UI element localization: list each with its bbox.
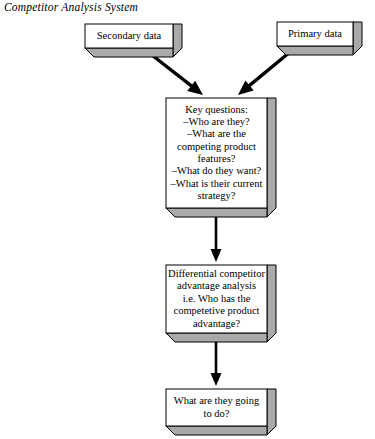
flowchart-node-key-questions: Key questions: –Who are they? –What are … [165, 97, 277, 218]
diagram-canvas: Competitor Analysis System Secondary dat… [0, 0, 375, 439]
node-side-face [173, 24, 182, 57]
flowchart-node-secondary-data: Secondary data [84, 23, 183, 58]
edge-arrowhead [211, 249, 222, 262]
node-shape-differential-advantage [165, 264, 277, 343]
node-front-face [166, 265, 267, 333]
node-bottom-face [166, 333, 267, 342]
edge-layer [0, 0, 375, 439]
edge-secondary-to-questions [148, 52, 203, 95]
node-side-face [353, 22, 362, 55]
node-side-face [267, 98, 276, 217]
edge-primary-to-questions [238, 52, 290, 95]
flowchart-node-primary-data: Primary data [276, 21, 363, 56]
flowchart-node-differential-advantage: Differential competitor advantage analys… [165, 264, 277, 343]
node-front-face [166, 389, 267, 426]
flowchart-node-what-next: What are they going to do? [165, 388, 277, 436]
diagram-title: Competitor Analysis System [4, 1, 138, 13]
node-shape-key-questions [165, 97, 277, 218]
node-bottom-face [277, 46, 353, 55]
node-shape-what-next [165, 388, 277, 436]
node-bottom-face [166, 426, 267, 435]
node-front-face [277, 22, 353, 46]
edge-shaft [248, 52, 290, 86]
edge-arrowhead [238, 80, 254, 95]
node-bottom-face [85, 48, 173, 57]
node-shape-primary-data [276, 21, 363, 56]
node-shape-secondary-data [84, 23, 183, 58]
node-front-face [85, 24, 173, 48]
edge-arrowhead [211, 373, 222, 386]
node-front-face [166, 98, 267, 208]
node-side-face [267, 265, 276, 342]
node-side-face [267, 389, 276, 435]
edge-arrowhead [187, 81, 203, 95]
node-bottom-face [166, 208, 267, 217]
